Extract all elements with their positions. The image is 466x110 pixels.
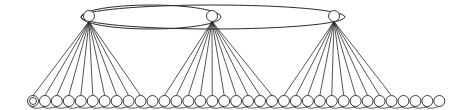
leaf-node: [434, 96, 445, 107]
leaf-node: [231, 96, 242, 107]
leaf-node: [422, 96, 433, 107]
fan-edge: [89, 22, 117, 96]
leaf-node: [219, 96, 230, 107]
graph-svg: [0, 0, 466, 110]
fan-edge: [212, 22, 224, 96]
leaf-nodes: [28, 96, 445, 107]
leaf-node: [338, 96, 349, 107]
leaf-node: [99, 96, 110, 107]
leaf-node: [374, 96, 385, 107]
fan-edge: [33, 22, 89, 96]
leaf-node: [267, 96, 278, 107]
leaf-node: [135, 96, 146, 107]
fan-edge: [308, 22, 334, 96]
leaf-node: [111, 96, 122, 107]
fan-edges: [33, 22, 392, 96]
fan-edge: [200, 22, 212, 96]
fan-edge: [89, 22, 129, 96]
leaf-node: [350, 96, 361, 107]
leaf-node: [51, 96, 62, 107]
fan-edge: [212, 22, 272, 96]
leaf-node: [362, 96, 373, 107]
fan-edge: [334, 22, 356, 96]
leaf-node: [75, 96, 86, 107]
leaf-node: [147, 96, 158, 107]
fan-edge: [212, 22, 248, 96]
leaf-node: [243, 96, 254, 107]
leaf-node: [123, 96, 134, 107]
fan-edge: [69, 22, 89, 96]
graph-diagram: [0, 0, 466, 110]
hub-3-node: [329, 11, 340, 22]
leaf-node: [159, 96, 170, 107]
leaf-node: [326, 96, 337, 107]
leaf-node: [183, 96, 194, 107]
fan-edge: [284, 22, 334, 96]
fan-edge: [57, 22, 89, 96]
fan-edge: [188, 22, 212, 96]
leaf-node: [386, 96, 397, 107]
fan-edge: [296, 22, 334, 96]
fan-edge: [164, 22, 212, 96]
leaf-node: [87, 96, 98, 107]
fan-edge: [334, 22, 380, 96]
hub-nodes: [84, 11, 340, 22]
leaf-node: [410, 96, 421, 107]
leaf-node: [63, 96, 74, 107]
leaf-node: [255, 96, 266, 107]
leaf-node: [39, 96, 50, 107]
hub-2-node: [207, 11, 218, 22]
fan-edge: [89, 22, 93, 96]
leaf-node: [278, 96, 289, 107]
fan-edge: [212, 22, 236, 96]
leaf-node-inner-ring: [30, 98, 37, 105]
fan-edge: [176, 22, 212, 96]
leaf-node: [171, 96, 182, 107]
hub-1-node: [84, 11, 95, 22]
leaf-node: [314, 96, 325, 107]
leaf-node: [290, 96, 301, 107]
loop-hub1-hub2: [81, 5, 221, 29]
leaf-node: [195, 96, 206, 107]
leaf-node: [302, 96, 313, 107]
leaf-node: [207, 96, 218, 107]
leaf-node: [398, 96, 409, 107]
fan-edge: [212, 22, 260, 96]
